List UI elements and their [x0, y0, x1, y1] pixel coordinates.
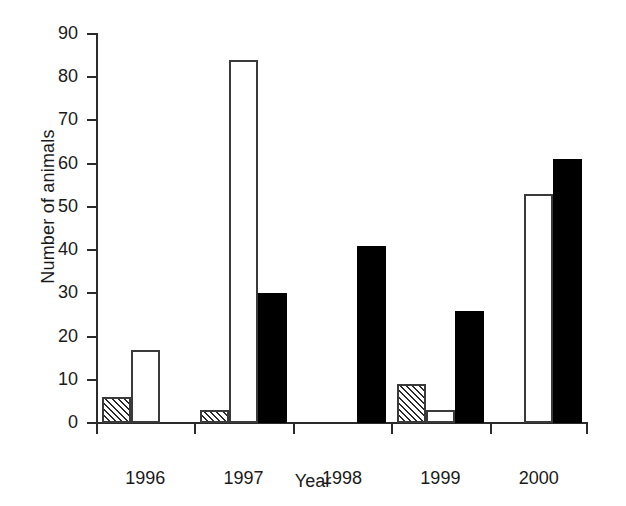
y-tick-90: [87, 33, 96, 35]
y-tick-label-80: 80: [38, 67, 78, 85]
bar-2000-black: [553, 159, 582, 423]
y-tick-label-0: 0: [38, 413, 78, 431]
x-tick-4: [490, 424, 492, 434]
y-tick-0: [87, 422, 96, 424]
y-tick-10: [87, 379, 96, 381]
bar-1997-black: [258, 293, 287, 423]
plot-area: 0102030405060708090 19961997199819992000: [96, 33, 588, 423]
x-tick-3: [391, 424, 393, 434]
x-tick-2: [293, 424, 295, 434]
bar-1999-black: [455, 311, 484, 423]
x-tick-label-1996: 1996: [100, 469, 190, 487]
x-tick-label-1999: 1999: [395, 469, 485, 487]
bar-1997-hatched: [200, 410, 229, 423]
x-tick-label-1997: 1997: [199, 469, 289, 487]
bar-2000-white: [524, 194, 553, 423]
y-tick-70: [87, 119, 96, 121]
bar-1996-hatched: [102, 397, 131, 423]
x-axis-line: [96, 422, 588, 424]
chart-figure: Number of animals Year 01020304050607080…: [0, 0, 626, 506]
x-tick-label-1998: 1998: [297, 469, 387, 487]
x-tick-5: [586, 424, 588, 434]
bar-1999-white: [426, 410, 455, 423]
y-tick-label-60: 60: [38, 154, 78, 172]
y-tick-20: [87, 336, 96, 338]
y-tick-label-40: 40: [38, 240, 78, 258]
bar-1996-white: [131, 350, 160, 423]
bar-1999-hatched: [397, 384, 426, 423]
y-tick-label-30: 30: [38, 283, 78, 301]
y-tick-label-50: 50: [38, 197, 78, 215]
x-tick-label-2000: 2000: [494, 469, 584, 487]
y-tick-label-90: 90: [38, 24, 78, 42]
y-tick-60: [87, 163, 96, 165]
y-tick-40: [87, 249, 96, 251]
bar-1997-white: [229, 60, 258, 423]
bar-1998-black: [357, 246, 386, 423]
y-tick-30: [87, 292, 96, 294]
x-tick-1: [194, 424, 196, 434]
y-tick-label-10: 10: [38, 370, 78, 388]
y-tick-50: [87, 206, 96, 208]
y-tick-label-20: 20: [38, 327, 78, 345]
y-tick-label-70: 70: [38, 110, 78, 128]
y-axis-line: [96, 33, 98, 424]
y-tick-80: [87, 76, 96, 78]
x-tick-0: [96, 424, 98, 434]
